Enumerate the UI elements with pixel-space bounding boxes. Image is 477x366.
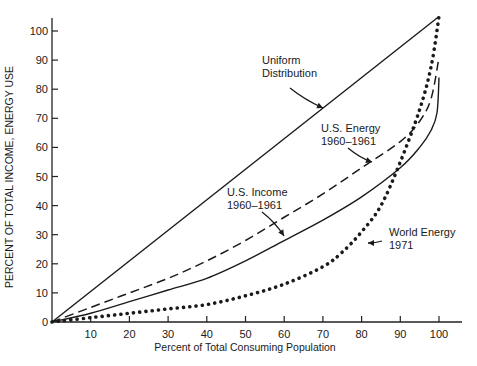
x-axis-title: Percent of Total Consuming Population — [154, 341, 335, 353]
x-tick-label: 10 — [85, 328, 97, 340]
y-tick-label: 80 — [36, 83, 48, 95]
y-tick-label: 0 — [42, 316, 48, 328]
x-tick-label: 50 — [239, 328, 251, 340]
x-tick-label: 40 — [201, 328, 213, 340]
arrowhead-icon — [368, 240, 374, 246]
annotation-label: 1960–1961 — [227, 199, 282, 211]
annotation-label: Distribution — [262, 67, 317, 79]
lorenz-curve-chart: 0102030405060708090100102030405060708090… — [0, 0, 477, 366]
annotation-us-income: U.S. Income1960–1961 — [227, 186, 288, 236]
arrowhead-icon — [278, 229, 284, 236]
annotation-label: U.S. Income — [227, 186, 288, 198]
annotation-us-energy: U.S. Energy1960–1961 — [321, 122, 381, 163]
y-tick-label: 30 — [36, 229, 48, 241]
annotation-label: Uniform — [262, 54, 301, 66]
y-tick-label: 60 — [36, 141, 48, 153]
x-tick-label: 30 — [162, 328, 174, 340]
y-axis-title: PERCENT OF TOTAL INCOME, ENERGY USE — [3, 66, 15, 288]
annotation-uniform-distribution: UniformDistribution — [262, 54, 323, 108]
y-tick-label: 40 — [36, 200, 48, 212]
annotation-label: World Energy — [389, 226, 456, 238]
x-tick-label: 60 — [278, 328, 290, 340]
y-tick-label: 20 — [36, 258, 48, 270]
annotation-world-energy: World Energy1971 — [368, 226, 456, 251]
axes: 0102030405060708090100102030405060708090… — [30, 18, 462, 340]
arrowhead-icon — [365, 157, 372, 163]
x-tick-label: 80 — [355, 328, 367, 340]
series-uniform-distribution — [52, 16, 439, 322]
annotation-label: 1971 — [389, 239, 413, 251]
y-tick-label: 90 — [36, 54, 48, 66]
y-tick-label: 70 — [36, 112, 48, 124]
x-tick-label: 70 — [317, 328, 329, 340]
x-tick-label: 100 — [430, 328, 448, 340]
y-tick-label: 50 — [36, 171, 48, 183]
series-layer — [52, 16, 439, 322]
x-tick-label: 20 — [123, 328, 135, 340]
y-tick-label: 10 — [36, 287, 48, 299]
annotation-label: U.S. Energy — [321, 122, 381, 134]
annotation-label: 1960–1961 — [321, 135, 376, 147]
annotations-layer: UniformDistributionU.S. Energy1960–1961U… — [227, 54, 456, 251]
y-tick-label: 100 — [30, 25, 48, 37]
x-tick-label: 90 — [394, 328, 406, 340]
